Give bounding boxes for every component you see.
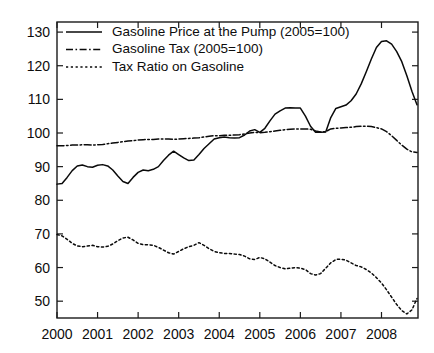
x-tick-label: 2005 — [244, 326, 275, 342]
chart-canvas: 5060708090100110120130 20002001200220032… — [0, 0, 434, 353]
chart-legend: Gasoline Price at the Pump (2005=100)Gas… — [66, 24, 350, 74]
y-tick-label: 130 — [27, 24, 51, 40]
gasoline-price-tax-chart: 5060708090100110120130 20002001200220032… — [0, 0, 434, 353]
x-tick-label: 2001 — [82, 326, 113, 342]
y-tick-label: 80 — [34, 192, 50, 208]
y-tick-label: 100 — [27, 125, 51, 141]
x-tick-label: 2004 — [204, 326, 235, 342]
legend-label-0: Gasoline Price at the Pump (2005=100) — [112, 24, 350, 39]
y-tick-label: 60 — [34, 260, 50, 276]
x-tick-label: 2000 — [41, 326, 72, 342]
legend-label-1: Gasoline Tax (2005=100) — [112, 41, 263, 56]
x-tick-label: 2008 — [366, 326, 397, 342]
y-tick-label: 90 — [34, 159, 50, 175]
legend-label-2: Tax Ratio on Gasoline — [112, 59, 244, 74]
y-tick-label: 120 — [27, 58, 51, 74]
x-tick-label: 2006 — [285, 326, 316, 342]
x-tick-label: 2002 — [123, 326, 154, 342]
x-tick-label: 2003 — [163, 326, 194, 342]
series-line-2 — [57, 235, 417, 314]
y-tick-label: 110 — [28, 91, 51, 107]
x-tick-label: 2007 — [325, 326, 356, 342]
y-tick-label: 70 — [34, 226, 50, 242]
data-series-group — [57, 41, 417, 314]
series-line-1 — [57, 126, 417, 152]
y-tick-label: 50 — [34, 293, 50, 309]
